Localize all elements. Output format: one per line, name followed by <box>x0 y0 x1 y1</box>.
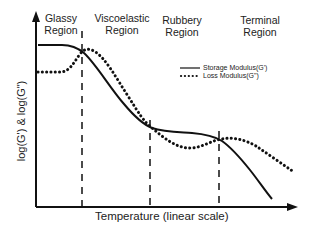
region-label-glassy-line1: Glassy <box>40 12 82 24</box>
x-axis-arrow-icon <box>287 203 298 211</box>
region-label-viscoelastic: Viscoelastic Region <box>86 12 158 36</box>
region-label-viscoelastic-line1: Viscoelastic <box>86 12 158 24</box>
region-label-glassy-line2: Region <box>40 24 82 36</box>
legend-loss-label: Loss Modulus(G") <box>203 72 259 80</box>
region-label-terminal: Terminal Region <box>230 14 290 38</box>
legend-storage-label: Storage Modulus(G') <box>203 64 267 72</box>
region-label-rubbery-line2: Region <box>156 26 208 38</box>
region-label-rubbery-line1: Rubbery <box>156 14 208 26</box>
region-label-rubbery: Rubbery Region <box>156 14 208 38</box>
region-label-terminal-line2: Region <box>230 26 290 38</box>
region-label-glassy: Glassy Region <box>40 12 82 36</box>
x-axis-label: Temperature (linear scale) <box>95 210 229 222</box>
y-axis-label: log(G') & log(G") <box>15 66 27 176</box>
region-label-terminal-line1: Terminal <box>230 14 290 26</box>
y-axis-arrow-icon <box>32 11 40 22</box>
region-label-viscoelastic-line2: Region <box>86 24 158 36</box>
